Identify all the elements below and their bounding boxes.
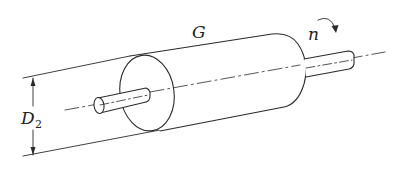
rotor-diagram: G n D 2: [0, 0, 404, 173]
upper-extension-line: [23, 56, 130, 78]
arrow-up-icon: [31, 78, 36, 86]
weight-label-G: G: [192, 22, 206, 42]
speed-label-n: n: [308, 24, 319, 44]
diameter-label-D: D: [20, 108, 35, 128]
diameter-label-subscript: 2: [35, 118, 42, 131]
rotation-arrowhead-icon: [332, 25, 339, 33]
lower-extension-line: [23, 130, 160, 156]
